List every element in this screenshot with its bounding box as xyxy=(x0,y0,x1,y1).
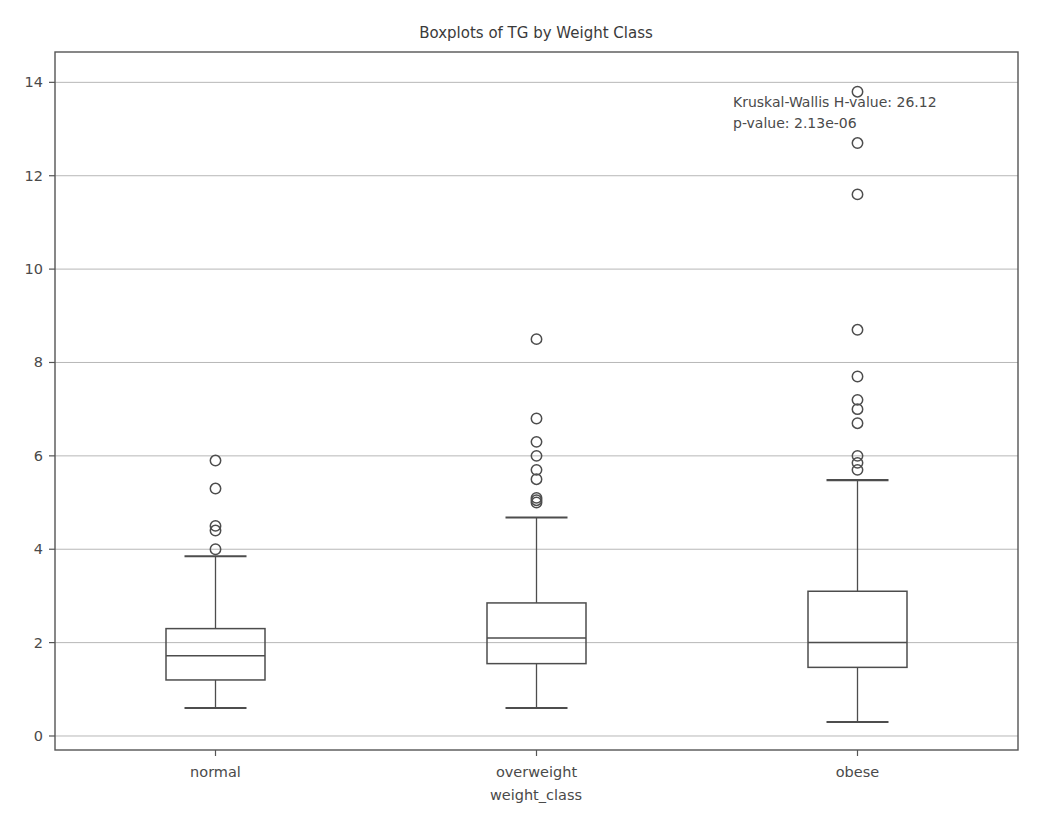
y-tick-label-12: 12 xyxy=(25,168,43,184)
boxplot-chart: 02468101214 normaloverweightobese Boxplo… xyxy=(0,0,1051,833)
y-tick-label-4: 4 xyxy=(34,541,43,557)
x-axis-label: weight_class xyxy=(490,787,582,803)
x-tick-label-overweight: overweight xyxy=(496,764,578,780)
x-tick-label-obese: obese xyxy=(836,764,880,780)
y-tick-label-14: 14 xyxy=(25,74,43,90)
figure-canvas: 02468101214 normaloverweightobese Boxplo… xyxy=(0,0,1051,833)
y-tick-label-10: 10 xyxy=(25,261,43,277)
y-tick-label-2: 2 xyxy=(34,635,43,651)
annotation-h-value: Kruskal-Wallis H-value: 26.12 xyxy=(733,94,937,110)
y-tick-label-0: 0 xyxy=(34,728,43,744)
chart-title: Boxplots of TG by Weight Class xyxy=(419,24,653,42)
y-tick-label-8: 8 xyxy=(34,354,43,370)
y-tick-label-6: 6 xyxy=(34,448,43,464)
annotation-p-value: p-value: 2.13e-06 xyxy=(733,115,857,131)
x-tick-label-normal: normal xyxy=(190,764,241,780)
